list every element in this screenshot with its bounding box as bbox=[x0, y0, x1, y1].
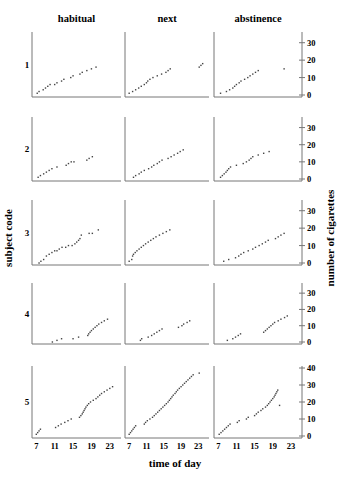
data-point bbox=[169, 400, 170, 401]
y-tick-label: 0 bbox=[307, 90, 311, 100]
data-point bbox=[220, 177, 221, 178]
data-point bbox=[177, 389, 178, 390]
data-point bbox=[161, 159, 162, 160]
y-tick-label: 10 bbox=[307, 241, 316, 251]
data-point bbox=[160, 408, 161, 409]
data-point bbox=[147, 336, 148, 337]
data-point bbox=[235, 336, 236, 337]
y-tick-label: 0 bbox=[307, 337, 311, 347]
panel-4-habitual bbox=[32, 283, 121, 344]
data-point bbox=[229, 423, 230, 424]
data-point bbox=[133, 254, 134, 255]
data-point bbox=[164, 405, 165, 406]
data-point bbox=[258, 412, 259, 413]
data-point bbox=[227, 340, 228, 341]
data-point bbox=[166, 403, 167, 404]
data-point bbox=[258, 70, 259, 71]
data-point bbox=[229, 89, 230, 90]
y-tick-label: 10 bbox=[307, 414, 316, 424]
data-point bbox=[131, 259, 132, 260]
data-point bbox=[159, 161, 160, 162]
data-point bbox=[56, 166, 57, 167]
cigarette-smallmultiples-chart: habitualnextabstinence 12345 01020300102… bbox=[0, 0, 346, 478]
data-point bbox=[192, 374, 193, 375]
y-axis-title-left: subject code bbox=[2, 209, 14, 267]
data-point bbox=[162, 233, 163, 234]
data-point bbox=[255, 247, 256, 248]
data-point bbox=[248, 159, 249, 160]
data-point bbox=[90, 401, 91, 402]
data-point bbox=[220, 432, 221, 433]
right-axis-row-2: 0102030 bbox=[299, 117, 316, 184]
data-point bbox=[222, 175, 223, 176]
data-point bbox=[52, 341, 53, 342]
data-point bbox=[223, 173, 224, 174]
data-point bbox=[79, 417, 80, 418]
data-point bbox=[275, 238, 276, 239]
data-point bbox=[135, 425, 136, 426]
data-point bbox=[153, 238, 154, 239]
data-point bbox=[93, 328, 94, 329]
data-point bbox=[272, 398, 273, 399]
data-point bbox=[157, 75, 158, 76]
data-point bbox=[71, 161, 72, 162]
data-point bbox=[49, 84, 50, 85]
panel-2-next bbox=[125, 117, 209, 181]
data-point bbox=[155, 413, 156, 414]
data-point bbox=[37, 177, 38, 178]
data-point bbox=[255, 72, 256, 73]
data-point bbox=[179, 388, 180, 389]
data-point bbox=[61, 338, 62, 339]
y-tick-label: 0 bbox=[307, 431, 311, 441]
panel-3-next bbox=[125, 200, 209, 265]
data-point bbox=[170, 68, 171, 69]
data-point bbox=[151, 166, 152, 167]
data-point bbox=[88, 158, 89, 159]
data-point bbox=[93, 400, 94, 401]
data-point bbox=[166, 231, 167, 232]
data-point bbox=[177, 153, 178, 154]
data-point bbox=[240, 333, 241, 334]
data-point bbox=[174, 393, 175, 394]
data-point bbox=[252, 248, 253, 249]
y-tick-label: 30 bbox=[307, 380, 316, 390]
data-point bbox=[135, 175, 136, 176]
data-point bbox=[271, 400, 272, 401]
data-point bbox=[78, 336, 79, 337]
data-point bbox=[61, 247, 62, 248]
data-point bbox=[156, 332, 157, 333]
data-point bbox=[189, 320, 190, 321]
data-point bbox=[250, 158, 251, 159]
data-point bbox=[263, 332, 264, 333]
data-point bbox=[263, 153, 264, 154]
data-point bbox=[189, 378, 190, 379]
data-point bbox=[200, 65, 201, 66]
data-point bbox=[278, 320, 279, 321]
data-point bbox=[140, 340, 141, 341]
row-labels: 12345 bbox=[25, 60, 30, 408]
data-point bbox=[157, 412, 158, 413]
data-point bbox=[45, 87, 46, 88]
data-point bbox=[88, 233, 89, 234]
data-point bbox=[268, 327, 269, 328]
row-label-subject-3: 3 bbox=[25, 228, 30, 238]
data-point bbox=[238, 82, 239, 83]
data-point bbox=[56, 250, 57, 251]
data-point bbox=[268, 403, 269, 404]
data-point bbox=[228, 259, 229, 260]
data-point bbox=[220, 93, 221, 94]
data-point bbox=[37, 93, 38, 94]
x-tick-label: 15 bbox=[69, 441, 78, 451]
x-tick-label: 15 bbox=[250, 441, 259, 451]
data-point bbox=[133, 177, 134, 178]
y-tick-label: 20 bbox=[307, 140, 316, 150]
column-title-habitual: habitual bbox=[58, 13, 95, 24]
data-point bbox=[138, 87, 139, 88]
data-point bbox=[132, 429, 133, 430]
data-point bbox=[47, 86, 48, 87]
data-point bbox=[40, 261, 41, 262]
column-titles: habitualnextabstinence bbox=[58, 13, 282, 24]
data-point bbox=[280, 319, 281, 320]
x-tick-label: 7 bbox=[127, 441, 132, 451]
panel-5-next bbox=[125, 366, 209, 438]
